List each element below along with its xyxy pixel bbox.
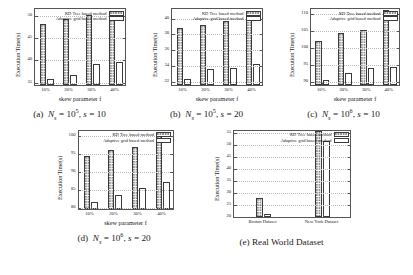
x-axis-ticks-e: Boston DatasetNew York Dataset	[233, 218, 351, 227]
grid-line	[311, 31, 399, 32]
y-tick-label: 38	[164, 31, 169, 36]
y-tick-mark	[311, 48, 314, 49]
x-tick-label: 10%	[85, 211, 93, 216]
legend-label-adaptive: Adaptive grid based method	[103, 138, 154, 143]
bar-group	[338, 33, 352, 85]
y-tick-mark	[79, 208, 82, 209]
legend-row-adaptive: Adaptive grid based method	[330, 16, 398, 21]
bar-adaptive-grid	[139, 188, 146, 209]
y-tick-label: 95	[71, 151, 76, 156]
y-tick-mark	[348, 181, 351, 182]
y-axis-ticks-b: 3234363840	[158, 8, 171, 86]
y-tick-mark	[172, 82, 175, 83]
legend-swatch-kd	[109, 11, 124, 16]
x-axis-ticks-c: 10%20%30%40%	[310, 86, 400, 95]
y-tick-label: 100	[69, 133, 76, 138]
plot-area-e: KD Tree based method Adaptive grid based…	[233, 130, 351, 218]
caption-b-sval: 20	[234, 109, 243, 119]
x-tick-label: Boston Dataset	[249, 219, 277, 224]
chart-panel-d: Execution Time(s) 80859095100 KD Tree ba…	[39, 130, 189, 248]
y-tick-mark	[35, 38, 38, 39]
y-tick-label: 80	[71, 205, 76, 210]
x-tick-mark	[264, 214, 265, 217]
plot-c: Execution Time(s) 9095100105110 KD Tree …	[287, 8, 400, 102]
bar-kd-tree	[256, 198, 263, 217]
x-tick-label: 10%	[178, 87, 186, 92]
legend-swatch-adaptive	[334, 138, 349, 143]
y-tick-label: 85	[71, 187, 76, 192]
grid-line	[35, 83, 125, 84]
grid-line	[234, 181, 350, 182]
y-tick-mark	[311, 14, 314, 15]
caption-d-sval: 20	[141, 233, 150, 243]
caption-c-base: 10	[340, 109, 349, 119]
y-tick-mark	[260, 82, 263, 83]
figure-row-bottom: Execution Time(s) 80859095100 KD Tree ba…	[0, 124, 413, 248]
y-axis-label-b: Execution Time(s)	[150, 8, 158, 102]
y-tick-mark	[234, 205, 237, 206]
y-tick-mark	[170, 190, 173, 191]
bar-kd-tree	[109, 12, 116, 85]
x-tick-mark	[91, 206, 92, 209]
x-tick-label: 10%	[41, 87, 49, 92]
legend-label-kd: KD Tree based method	[65, 11, 107, 16]
caption-c-tag: (c)	[307, 109, 317, 119]
caption-a-nsub: s	[54, 114, 57, 121]
legend-label-adaptive: Adaptive grid based method	[56, 16, 107, 21]
y-tick-mark	[170, 172, 173, 173]
y-tick-mark	[348, 157, 351, 158]
legend-swatch-adaptive	[156, 138, 171, 143]
y-tick-label: 50	[226, 142, 231, 147]
caption-a-eq: =	[59, 109, 64, 119]
grid-line	[35, 38, 125, 39]
legend-swatch-adaptive	[109, 16, 124, 21]
legend-a: KD Tree based method Adaptive grid based…	[56, 11, 124, 22]
caption-c: (c) Ns = 106, s = 10	[307, 105, 380, 124]
y-tick-mark	[260, 50, 263, 51]
chart-panel-c: Execution Time(s) 9095100105110 KD Tree …	[275, 8, 412, 124]
y-axis-ticks-e: 2025303540455055	[220, 130, 233, 218]
caption-e-tag: (e)	[239, 237, 249, 247]
y-tick-mark	[172, 19, 175, 20]
bar-kd-tree	[246, 13, 253, 85]
y-tick-label: 90	[303, 79, 308, 84]
bar-group	[40, 24, 54, 85]
x-tick-mark	[207, 83, 208, 86]
caption-d-tag: (d)	[77, 233, 88, 243]
grid-line	[234, 205, 350, 206]
x-tick-label: 40%	[157, 211, 165, 216]
bar-kd-tree	[338, 33, 345, 85]
y-tick-label: 25	[226, 202, 231, 207]
grid-line	[234, 145, 350, 146]
y-tick-mark	[35, 16, 38, 17]
plot-a: Execution Time(s) 35404550 KD Tree based…	[13, 8, 126, 102]
x-tick-mark	[93, 83, 94, 86]
bar-group	[156, 133, 170, 209]
y-tick-label: 35	[27, 79, 32, 84]
y-tick-mark	[79, 172, 82, 173]
y-tick-mark	[172, 66, 175, 67]
plot-area-a: KD Tree based method Adaptive grid based…	[34, 8, 126, 86]
caption-b-tag: (b)	[170, 109, 181, 119]
caption-c-nsub: s	[328, 114, 331, 121]
y-tick-mark	[172, 50, 175, 51]
x-axis-label-a: skew parameter f	[34, 95, 126, 102]
legend-swatch-kd	[383, 11, 398, 16]
figure-sheet: Execution Time(s) 35404550 KD Tree based…	[0, 0, 413, 275]
y-tick-mark	[79, 190, 82, 191]
y-tick-label: 35	[226, 178, 231, 183]
legend-b: KD Tree based method Adaptive grid based…	[193, 11, 261, 22]
caption-e: (e) Real World Dataset	[239, 236, 323, 248]
grid-line	[172, 34, 262, 35]
caption-d: (d) Ns = 106, s = 20	[77, 229, 150, 248]
legend-row-kd: KD Tree based method	[65, 11, 124, 16]
bar-group	[86, 15, 100, 85]
y-tick-mark	[234, 145, 237, 146]
x-tick-mark	[253, 83, 254, 86]
y-tick-label: 55	[226, 130, 231, 135]
y-tick-label: 95	[303, 62, 308, 67]
y-axis-label-a: Execution Time(s)	[13, 8, 21, 102]
grid-line	[234, 169, 350, 170]
y-tick-label: 45	[226, 154, 231, 159]
y-tick-mark	[234, 169, 237, 170]
